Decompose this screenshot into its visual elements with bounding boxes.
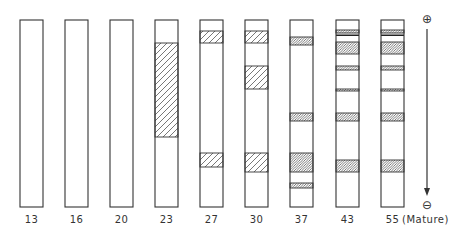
lanes-group [20,20,404,207]
migration-direction [424,29,430,196]
lane-37 [290,20,313,207]
lane-16 [65,20,88,207]
band [381,160,404,172]
lane-55 [381,20,404,207]
band [336,30,359,33]
band [200,31,223,43]
band [381,113,404,121]
lane-label: 20 [102,214,142,225]
lane-23 [155,20,178,207]
band [381,89,404,91]
mature-label: (Mature) [402,214,449,225]
band [290,113,313,121]
arrow-down-icon [424,188,430,196]
lane-label: 16 [57,214,97,225]
band [336,35,359,37]
gel-diagram [0,0,458,234]
band [381,66,404,70]
lane-label: 23 [147,214,187,225]
lane-13 [20,20,43,207]
band [290,153,313,172]
band [381,30,404,33]
band [155,43,178,137]
band [200,153,223,167]
band [245,153,268,172]
positive-pole-icon: ⊕ [420,13,434,25]
lane-label: 13 [12,214,52,225]
lane-outline [65,20,88,207]
lane-27 [200,20,223,207]
band [336,42,359,54]
band [381,35,404,37]
band [290,183,313,188]
band [336,89,359,91]
lane-43 [336,20,359,207]
band [336,113,359,121]
lane-label: 37 [282,214,322,225]
lane-outline [110,20,133,207]
lane-outline [245,20,268,207]
band [290,37,313,45]
lane-outline [200,20,223,207]
lane-30 [245,20,268,207]
band [336,160,359,172]
lane-20 [110,20,133,207]
lane-outline [20,20,43,207]
lane-label: 43 [328,214,368,225]
lane-label: 27 [192,214,232,225]
band [381,42,404,54]
band [245,66,268,89]
band [336,66,359,70]
negative-pole-icon: ⊖ [420,199,434,211]
lane-label: 30 [237,214,277,225]
band [245,31,268,43]
